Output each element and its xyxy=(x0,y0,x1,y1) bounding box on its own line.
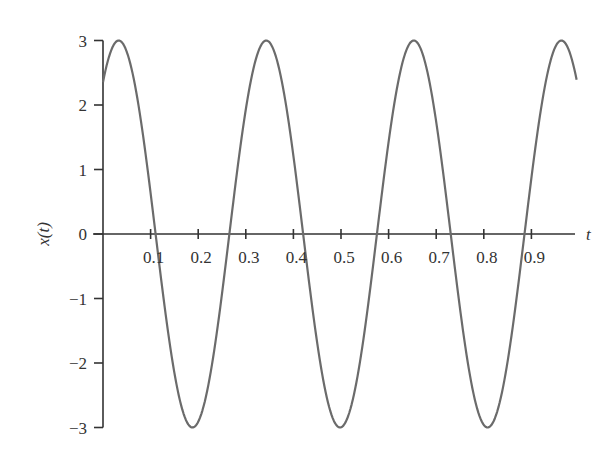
line-chart: 3210−1−2−30.10.20.30.40.50.60.70.80.9 t … xyxy=(0,0,615,458)
x-tick-label: 0.4 xyxy=(286,248,308,267)
axes xyxy=(93,41,575,428)
x-tick-label: 0.7 xyxy=(429,248,451,267)
x-tick-label: 0.3 xyxy=(238,248,259,267)
x-tick-label: 0.8 xyxy=(476,248,497,267)
y-tick-label: −2 xyxy=(69,354,87,373)
x-tick-label: 0.1 xyxy=(143,248,164,267)
x-tick-label: 0.6 xyxy=(381,248,402,267)
y-tick-label: −3 xyxy=(69,419,87,438)
y-tick-label: −1 xyxy=(69,290,87,309)
y-tick-label: 3 xyxy=(79,32,88,51)
y-axis-label: x(t) xyxy=(34,222,53,247)
y-tick-label: 0 xyxy=(79,225,88,244)
y-tick-label: 1 xyxy=(79,161,88,180)
x-tick-label: 0.2 xyxy=(191,248,212,267)
y-tick-label: 2 xyxy=(79,96,88,115)
x-tick-label: 0.9 xyxy=(524,248,545,267)
x-axis-label: t xyxy=(586,225,592,244)
x-tick-label: 0.5 xyxy=(333,248,354,267)
